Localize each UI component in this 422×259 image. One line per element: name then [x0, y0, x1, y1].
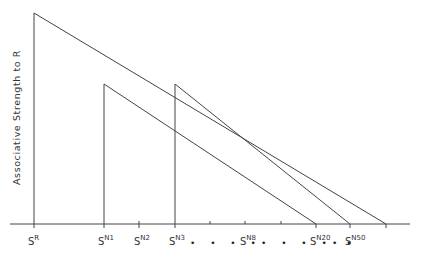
curve-sr — [34, 13, 386, 224]
x-label-sn50: SN50 — [345, 236, 366, 247]
diagram-canvas — [0, 0, 422, 259]
x-label-sn2: SN2 — [134, 236, 150, 247]
curve-sn3 — [175, 84, 350, 224]
x-label-sn1: SN1 — [98, 236, 114, 247]
y-axis-label: Associative Strength to R — [11, 38, 22, 198]
curve-sn1 — [104, 84, 316, 224]
x-label-sn3: SN3 — [169, 236, 185, 247]
x-label-sn20: SN20 — [310, 236, 331, 247]
x-label-sn8: SN8 — [240, 236, 256, 247]
x-label-sr: SR — [28, 236, 39, 247]
